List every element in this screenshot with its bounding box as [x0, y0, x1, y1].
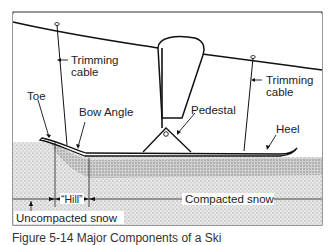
figure-caption: Figure 5-14 Major Components of a Ski: [12, 231, 221, 245]
label-pedestal: Pedestal: [191, 104, 236, 116]
label-hill: “Hill”: [61, 193, 83, 205]
label-heel: Heel: [276, 123, 300, 135]
label-uncompacted-snow: Uncompacted snow: [16, 212, 117, 224]
label-trimming-cable-left: Trimming cable: [71, 54, 119, 78]
label-bow-angle: Bow Angle: [79, 106, 133, 118]
label-trimming-cable-right: Trimming cable: [266, 74, 314, 98]
label-compacted-snow: Compacted snow: [185, 193, 274, 205]
label-toe: Toe: [27, 90, 46, 102]
